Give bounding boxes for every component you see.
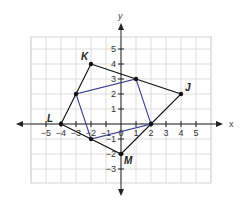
x-tick-label: 5 <box>193 128 198 138</box>
y-axis-down-arrow-icon <box>118 189 124 196</box>
vertex-point <box>74 92 78 96</box>
x-axis-right-arrow-icon <box>216 121 223 127</box>
x-tick-label: 2 <box>148 128 153 138</box>
x-tick-label: 0 <box>118 128 123 138</box>
vertex-point <box>89 137 93 141</box>
vertex-point <box>89 62 93 66</box>
y-tick-label: 4 <box>111 59 116 69</box>
x-tick-label: −5 <box>41 128 51 138</box>
y-tick-label: 2 <box>111 89 116 99</box>
y-tick-label: 1 <box>111 104 116 114</box>
y-tick-label: −3 <box>106 164 116 174</box>
y-tick-label: 3 <box>111 74 116 84</box>
vertex-label-J: J <box>185 82 191 93</box>
x-axis-left-arrow-icon <box>16 121 23 127</box>
vertex-point <box>149 122 153 126</box>
vertex-point <box>179 92 183 96</box>
x-tick-label: 3 <box>163 128 168 138</box>
vertex-point <box>119 152 123 156</box>
x-axis-label: x <box>229 119 234 129</box>
coordinate-plane: xy−5−4−3−2−101234554321−1−2−3KJML <box>0 0 243 203</box>
vertex-label-M: M <box>124 155 133 166</box>
y-axis-label: y <box>117 11 123 21</box>
y-tick-label: 5 <box>111 44 116 54</box>
x-tick-label: 4 <box>178 128 183 138</box>
vertex-point <box>134 77 138 81</box>
y-tick-label: −1 <box>106 134 116 144</box>
x-tick-label: −4 <box>56 128 66 138</box>
y-axis-up-arrow-icon <box>118 23 124 30</box>
vertex-label-L: L <box>47 113 53 124</box>
vertex-point <box>59 122 63 126</box>
vertex-label-K: K <box>81 51 89 62</box>
